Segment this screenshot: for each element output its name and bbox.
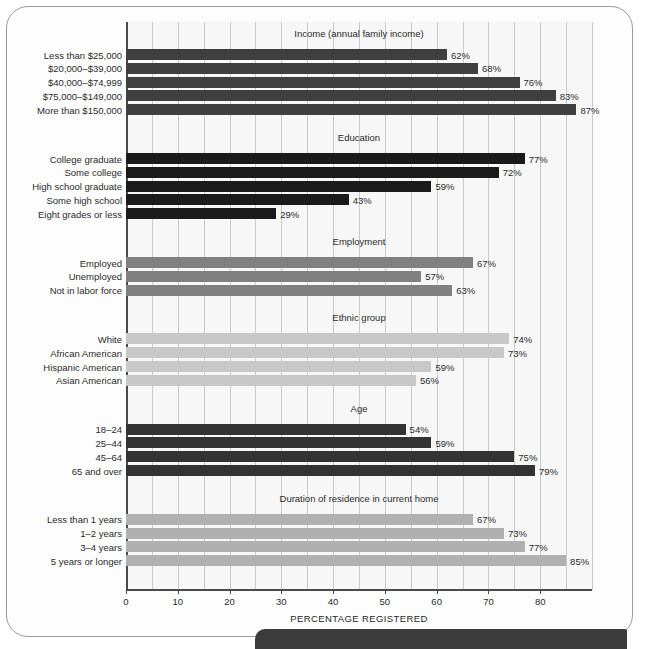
x-tick-label: 70 [483,596,494,607]
bar-value-label: 59% [435,438,454,449]
bar-value-label: 77% [529,542,548,553]
bar-value-label: 73% [508,348,527,359]
bar-value-label: 72% [503,167,522,178]
bar [126,208,276,219]
bar [126,257,473,268]
row-label: Some college [0,167,122,178]
row-label: Not in labor force [0,285,122,296]
x-tick [437,589,438,594]
bottom-banner [255,629,627,649]
bar [126,153,525,164]
bar [126,437,431,448]
bar-value-label: 29% [280,209,299,220]
x-tick [281,589,282,594]
x-tick [540,589,541,594]
bar [126,333,509,344]
bar [126,104,576,115]
bar-value-label: 67% [477,258,496,269]
x-tick-label: 50 [380,596,391,607]
bar-value-label: 87% [580,105,599,116]
row-label: Some high school [0,195,122,206]
x-tick-label: 30 [276,596,287,607]
row-label: Unemployed [0,271,122,282]
x-tick-label: 40 [328,596,339,607]
bar [126,514,473,525]
x-tick-label: 10 [172,596,183,607]
bar [126,555,566,566]
x-tick [126,589,127,594]
bar [126,167,499,178]
bar [126,194,349,205]
x-tick-label: 0 [123,596,128,607]
row-label: 3–4 years [0,542,122,553]
x-tick-label: 80 [535,596,546,607]
bar-value-label: 67% [477,514,496,525]
bar-value-label: 75% [518,452,537,463]
bar-value-label: 59% [435,181,454,192]
row-label: White [0,334,122,345]
bar [126,49,447,60]
bar [126,347,504,358]
bar-value-label: 74% [513,334,532,345]
x-axis-line [126,589,592,591]
row-label: College graduate [0,154,122,165]
x-axis-caption: PERCENTAGE REGISTERED [126,613,592,624]
row-label: $40,000–$74,999 [0,77,122,88]
bar [126,361,431,372]
group-heading: Age [351,403,368,414]
bar [126,375,416,386]
bar [126,424,406,435]
bar [126,181,431,192]
row-label: Less than 1 years [0,514,122,525]
row-label: $20,000–$39,000 [0,63,122,74]
bar-value-label: 54% [410,424,429,435]
row-label: Hispanic American [0,362,122,373]
bar-value-label: 63% [456,285,475,296]
group-heading: Income (annual family income) [294,28,423,39]
row-label: $75,000–$149,000 [0,91,122,102]
bar [126,271,421,282]
row-label: 45–64 [0,452,122,463]
row-label: 1–2 years [0,528,122,539]
row-label: Employed [0,258,122,269]
bar [126,63,478,74]
x-tick [178,589,179,594]
group-heading: Duration of residence in current home [280,493,439,504]
row-label: 5 years or longer [0,556,122,567]
row-label: Less than $25,000 [0,50,122,61]
figure-root: 01020304050607080 Income (annual family … [0,0,645,649]
row-label: 65 and over [0,466,122,477]
bar-value-label: 77% [529,154,548,165]
bar [126,528,504,539]
bar [126,90,556,101]
bar-value-label: 83% [560,91,579,102]
bar-value-label: 68% [482,63,501,74]
x-tick [488,589,489,594]
bar-value-label: 85% [570,556,589,567]
row-label: High school graduate [0,181,122,192]
group-heading: Ethnic group [332,312,385,323]
x-tick [385,589,386,594]
bar-value-label: 79% [539,466,558,477]
group-heading: Employment [333,236,386,247]
row-label: Eight grades or less [0,209,122,220]
bar-value-label: 73% [508,528,527,539]
x-tick-label: 20 [224,596,235,607]
bar-value-label: 56% [420,375,439,386]
bar-value-label: 43% [353,195,372,206]
row-label: African American [0,348,122,359]
bar-value-label: 57% [425,271,444,282]
x-tick-label: 60 [431,596,442,607]
group-heading: Education [338,132,380,143]
bar-value-label: 59% [435,362,454,373]
bar [126,77,520,88]
x-tick [230,589,231,594]
row-label: 25–44 [0,438,122,449]
bar [126,541,525,552]
bar [126,465,535,476]
row-label: Asian American [0,375,122,386]
row-label: More than $150,000 [0,105,122,116]
x-tick [333,589,334,594]
bar-value-label: 62% [451,50,470,61]
bar [126,285,452,296]
